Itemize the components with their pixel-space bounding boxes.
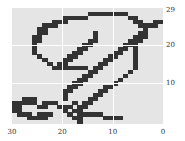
grid-line-vertical bbox=[62, 8, 63, 124]
filled-pixel bbox=[103, 89, 108, 93]
filled-pixel bbox=[77, 51, 82, 55]
filled-pixel bbox=[67, 58, 72, 62]
filled-pixel bbox=[67, 89, 72, 93]
filled-pixel bbox=[98, 66, 103, 70]
grid-line-vertical bbox=[163, 8, 164, 124]
filled-pixel bbox=[128, 70, 133, 74]
filled-pixel bbox=[118, 51, 123, 55]
filled-pixel bbox=[72, 85, 77, 89]
x-tick-label: 30 bbox=[8, 128, 17, 136]
filled-pixel bbox=[47, 112, 52, 116]
filled-pixel bbox=[72, 54, 77, 58]
filled-pixel bbox=[138, 39, 143, 43]
filled-pixel bbox=[82, 47, 87, 51]
filled-pixel bbox=[42, 105, 47, 109]
filled-pixel bbox=[98, 93, 103, 97]
filled-pixel bbox=[88, 101, 93, 105]
filled-pixel bbox=[42, 116, 47, 120]
x-tick-label: 10 bbox=[108, 128, 117, 136]
filled-pixel bbox=[123, 47, 128, 51]
filled-pixel bbox=[88, 74, 93, 78]
filled-pixel bbox=[52, 23, 57, 27]
x-tick-label: 0 bbox=[161, 128, 165, 136]
filled-pixel bbox=[133, 66, 138, 70]
filled-pixel bbox=[123, 74, 128, 78]
filled-pixel bbox=[93, 70, 98, 74]
grid-line-horizontal bbox=[12, 83, 163, 84]
filled-pixel bbox=[143, 35, 148, 39]
bitmap-heatmap bbox=[12, 8, 163, 124]
filled-pixel bbox=[77, 120, 82, 124]
filled-pixel bbox=[153, 23, 158, 27]
filled-pixel bbox=[82, 78, 87, 82]
filled-pixel bbox=[93, 39, 98, 43]
y-tick-label: 20 bbox=[166, 41, 175, 49]
grid-line-horizontal bbox=[12, 45, 163, 46]
filled-pixel bbox=[82, 105, 87, 109]
y-tick-label: 29 bbox=[166, 6, 175, 14]
filled-pixel bbox=[103, 62, 108, 66]
filled-pixel bbox=[118, 78, 123, 82]
y-tick-label: 10 bbox=[166, 79, 175, 87]
x-tick-label: 20 bbox=[58, 128, 67, 136]
filled-pixel bbox=[82, 16, 87, 20]
filled-pixel bbox=[118, 116, 123, 120]
filled-pixel bbox=[42, 31, 47, 35]
filled-pixel bbox=[93, 97, 98, 101]
filled-pixel bbox=[37, 39, 42, 43]
grid-line-vertical bbox=[113, 8, 114, 124]
